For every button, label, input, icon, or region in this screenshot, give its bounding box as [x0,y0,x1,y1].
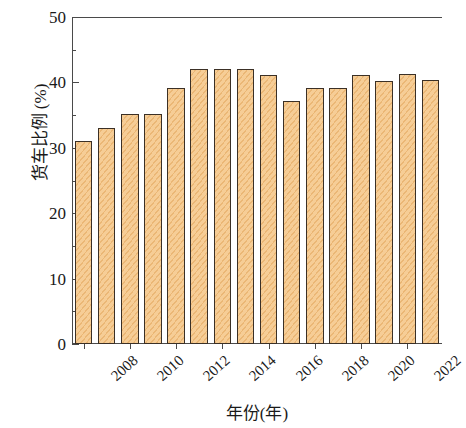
y-tick-label: 20 [49,204,66,224]
x-tick [130,344,131,349]
bar [144,114,162,344]
x-tick-label: 2020 [385,352,419,385]
x-tick-label: 2012 [200,352,234,385]
y-tick-minor [72,115,76,116]
bar [352,75,370,344]
y-tick-label: 10 [49,270,66,290]
x-tick-label: 2022 [431,352,465,385]
bar-chart-figure: 货车比例 (%) 年份(年) 01020304050 2008201020122… [0,0,466,428]
bar [190,69,208,344]
y-tick-label: 40 [49,73,66,93]
x-axis-title: 年份(年) [72,399,442,424]
y-tick-label: 30 [49,139,66,159]
bar [260,75,278,344]
y-tick-major: 0 [72,344,79,345]
bar [121,114,139,344]
bar [375,81,393,344]
bar [214,69,232,344]
bar [75,141,93,344]
x-tick [269,344,270,349]
x-tick-label: 2018 [339,352,373,385]
x-tick [407,344,408,349]
bar [306,88,324,344]
x-tick-label: 2016 [292,352,326,385]
x-tick-label: 2014 [246,352,280,385]
x-tick-label: 2010 [154,352,188,385]
x-tick-label: 2008 [107,352,141,385]
bar [399,74,417,344]
x-tick [361,344,362,349]
bar [237,69,255,344]
y-tick-minor [72,50,76,51]
x-tick [176,344,177,349]
x-tick [222,344,223,349]
y-tick-label: 50 [49,8,66,28]
y-tick-label: 0 [58,335,67,355]
bar [167,88,185,344]
bar [422,80,440,344]
y-tick-major: 50 [72,17,79,18]
bar [329,88,347,344]
y-axis-title: 货车比例 (%) [26,33,51,233]
bar [283,101,301,344]
x-tick [84,344,85,349]
y-tick-major: 40 [72,82,79,83]
bar [98,128,116,344]
plot-area: 01020304050 [72,17,442,344]
x-tick [315,344,316,349]
